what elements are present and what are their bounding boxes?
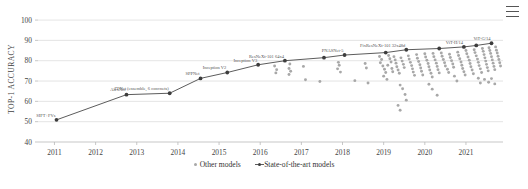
scatter-point	[337, 61, 340, 64]
x-tick-label-2013: 2013	[129, 148, 144, 157]
scatter-point	[421, 73, 424, 76]
scatter-point	[318, 80, 321, 83]
scatter-point	[410, 64, 413, 67]
scatter-point	[415, 53, 418, 56]
scatter-point	[398, 72, 401, 75]
sota-point[interactable]	[474, 44, 478, 48]
scatter-point	[390, 67, 393, 70]
scatter-point	[464, 73, 467, 76]
scatter-point	[447, 71, 450, 74]
x-tick-label-2011: 2011	[47, 148, 62, 157]
sota-point[interactable]	[199, 76, 203, 80]
sota-point[interactable]	[437, 47, 441, 51]
y-tick-label-40: 40	[25, 138, 33, 147]
y-tick-label-70: 70	[25, 77, 33, 86]
scatter-point	[386, 78, 389, 81]
sota-point[interactable]	[343, 53, 347, 57]
scatter-point	[403, 66, 406, 69]
scatter-point	[302, 65, 305, 68]
scatter-point	[449, 56, 452, 59]
scatter-point	[388, 57, 391, 60]
scatter-point	[493, 82, 496, 85]
scatter-point	[339, 71, 342, 74]
scatter-point	[386, 64, 389, 67]
scatter-point	[395, 62, 398, 65]
legend-item-sota-models[interactable]: State-of-the-art models	[255, 160, 335, 169]
scatter-point	[436, 94, 439, 97]
legend-item-other-models[interactable]: Other models	[194, 160, 241, 169]
scatter-point	[288, 63, 291, 66]
sota-point[interactable]	[283, 59, 287, 63]
legend-other-dot-icon	[194, 163, 197, 166]
sota-point[interactable]	[490, 41, 494, 45]
scatter-point	[473, 48, 476, 51]
scatter-point	[431, 88, 434, 91]
x-tick-label-2014: 2014	[171, 148, 186, 157]
sota-point[interactable]	[384, 51, 388, 55]
scatter-point	[488, 49, 491, 52]
scatter-point	[435, 62, 438, 65]
scatter-point	[472, 72, 475, 75]
scatter-point	[485, 63, 488, 66]
scatter-point	[353, 79, 356, 82]
scatter-point	[404, 93, 407, 96]
scatter-point	[408, 58, 411, 61]
sota-point-label: ViT-H/14	[446, 40, 464, 45]
scatter-point	[451, 63, 454, 66]
sota-point[interactable]	[125, 93, 129, 97]
scatter-point	[379, 61, 382, 64]
scatter-point	[399, 109, 402, 112]
legend-sota-label: State-of-the-art models	[264, 160, 334, 169]
scatter-point	[407, 54, 410, 57]
scatter-point	[483, 56, 486, 59]
scatter-point	[484, 60, 487, 63]
scatter-point	[461, 67, 464, 70]
scatter-point	[425, 59, 428, 62]
scatter-point	[460, 60, 463, 63]
scatter-point	[483, 53, 486, 56]
scatter-point	[493, 68, 496, 71]
sota-point[interactable]	[462, 45, 466, 49]
scatter-point	[494, 45, 497, 48]
scatter-point	[397, 69, 400, 72]
scatter-point	[384, 71, 387, 74]
scatter-point	[438, 71, 441, 74]
sota-point[interactable]	[256, 63, 260, 67]
scatter-point	[417, 60, 420, 63]
x-tick-label-2021: 2021	[459, 148, 474, 157]
scatter-point	[496, 52, 499, 55]
scatter-point	[477, 77, 480, 80]
scatter-point	[409, 61, 412, 64]
scatter-point	[304, 78, 307, 81]
scatter-point	[393, 55, 396, 58]
y-tick-label-80: 80	[25, 56, 33, 65]
sota-point[interactable]	[404, 48, 408, 52]
scatter-point	[289, 70, 292, 73]
scatter-point	[436, 65, 439, 68]
other-models-scatter	[273, 45, 502, 111]
sota-point[interactable]	[322, 56, 326, 60]
scatter-point	[336, 67, 339, 70]
scatter-point	[469, 65, 472, 68]
scatter-point	[405, 99, 408, 102]
scatter-point	[488, 46, 491, 49]
y-tick-label-50: 50	[25, 117, 33, 126]
sota-point[interactable]	[168, 91, 172, 95]
sota-point[interactable]	[225, 71, 229, 75]
y-axis-title: TOP-1 ACCURACY	[7, 44, 16, 114]
scatter-point	[491, 58, 494, 61]
scatter-point	[273, 65, 276, 68]
scatter-point	[381, 65, 384, 68]
scatter-point	[365, 67, 368, 70]
y-tick-label-60: 60	[25, 97, 33, 106]
scatter-point	[462, 70, 465, 73]
scatter-point	[479, 82, 482, 85]
scatter-point	[497, 55, 500, 58]
sota-point[interactable]	[55, 118, 59, 122]
figure-container: 405060708090100TOP-1 ACCURACY20112012201…	[0, 0, 528, 189]
sota-point-label: ResNeXt-101 64x4	[249, 54, 285, 59]
scatter-point	[490, 77, 493, 80]
scatter-point	[288, 73, 291, 76]
scatter-point	[401, 60, 404, 63]
scatter-point	[467, 56, 470, 59]
